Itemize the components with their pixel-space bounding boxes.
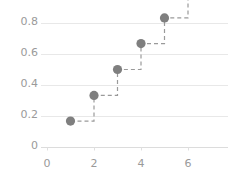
chart-figure: 00.20.40.60.8 0246 bbox=[0, 0, 228, 184]
x-tick-label-1: 2 bbox=[84, 157, 104, 170]
data-point-2[interactable] bbox=[113, 65, 122, 74]
y-tick-label-1: 0.2 bbox=[4, 108, 38, 121]
y-tick-label-3: 0.6 bbox=[4, 46, 38, 59]
y-tick-label-2: 0.4 bbox=[4, 77, 38, 90]
data-point-3[interactable] bbox=[136, 39, 145, 48]
data-point-1[interactable] bbox=[89, 91, 98, 100]
x-tick-label-2: 4 bbox=[131, 157, 151, 170]
x-tick-label-0: 0 bbox=[37, 157, 57, 170]
data-point-4[interactable] bbox=[160, 13, 169, 22]
step-line-path bbox=[71, 0, 203, 121]
y-tick-label-4: 0.8 bbox=[4, 15, 38, 28]
gridline-group bbox=[41, 24, 228, 148]
data-point-0[interactable] bbox=[66, 117, 75, 126]
x-tick-label-3: 6 bbox=[178, 157, 198, 170]
y-tick-label-0: 0 bbox=[4, 139, 38, 152]
data-point-group bbox=[66, 13, 169, 125]
